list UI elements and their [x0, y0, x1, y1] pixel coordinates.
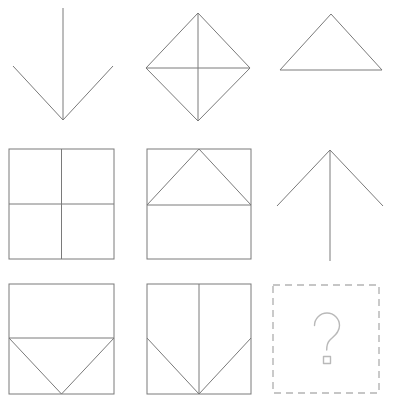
cell-2-diamond-with-diagonals[interactable]	[145, 6, 253, 124]
cell-7-square-with-lower-triangle[interactable]	[8, 283, 116, 396]
cell-1-down-arrow[interactable]	[8, 6, 116, 124]
cell-9-answer-slot[interactable]	[272, 283, 382, 396]
cell-8-square-with-down-arrow[interactable]	[145, 283, 253, 396]
cell-3-triangle-up[interactable]	[278, 6, 386, 124]
puzzle-matrix: Downward arrow: vertical stem with V arr…	[0, 0, 395, 404]
cell-4-square-quartered[interactable]	[8, 148, 116, 262]
cell-5-square-with-upper-triangle[interactable]	[145, 148, 253, 262]
cell-6-up-arrow[interactable]	[276, 148, 386, 262]
